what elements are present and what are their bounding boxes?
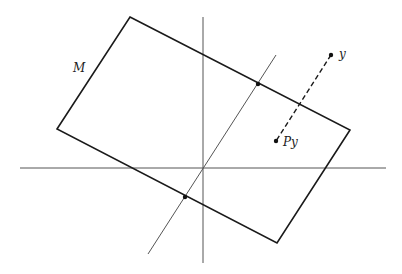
projection-segment [276, 55, 331, 141]
label-y: y [338, 47, 346, 61]
point-y [329, 53, 333, 57]
lower-intersection-point [183, 195, 187, 199]
point-Py [274, 139, 278, 143]
label-Py: Py [282, 135, 298, 149]
upper-intersection-point [256, 82, 260, 86]
label-M: M [72, 61, 86, 75]
projection-diagram: M y Py [0, 0, 402, 274]
